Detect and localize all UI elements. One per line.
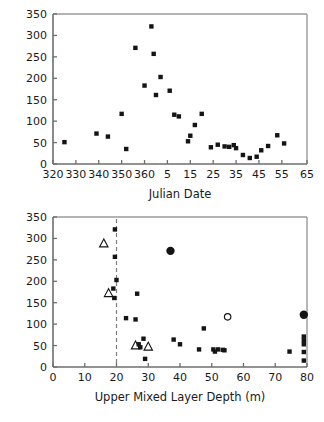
data-point-square [302,358,306,362]
data-point-filled-circle [300,311,308,319]
bottom-panel-chart: 05010015020025030035001020304050607080Up… [0,211,324,422]
data-point-square [216,143,220,147]
data-point-square [193,123,197,127]
data-point-square [222,144,226,148]
data-point-square [158,75,162,79]
x-tick-label: 80 [300,371,314,384]
x-axis-ticks: 01020304050607080 [50,363,315,384]
x-tick-label: 25 [206,168,220,181]
x-tick-label: 55 [275,168,289,181]
x-tick-label: 60 [237,371,251,384]
x-tick-label: 10 [78,371,92,384]
x-tick-label: 320 [43,168,64,181]
data-point-square [216,347,220,351]
series-large-filled-circle [166,247,308,319]
x-tick-label: 360 [134,168,155,181]
top-panel-svg: 0501001502002503003503203303403503605152… [0,0,324,211]
data-point-square [234,146,238,150]
data-point-square [111,286,115,290]
data-point-square [188,134,192,138]
x-axis-title: Julian Date [148,187,212,201]
data-point-square [119,112,123,116]
x-tick-label: 70 [268,371,282,384]
data-point-square [113,227,117,231]
data-point-square [168,89,172,93]
data-point-square [62,140,66,144]
y-tick-label: 350 [26,211,47,224]
data-point-square [124,147,128,151]
data-point-square [302,342,306,346]
data-point-square [282,141,286,145]
data-point-square [113,255,117,259]
y-tick-label: 50 [33,340,47,353]
data-point-square [141,337,145,341]
y-tick-label: 250 [26,254,47,267]
data-point-square [248,156,252,160]
x-tick-label: 50 [205,371,219,384]
x-tick-label: 65 [300,168,314,181]
series-open-triangle [100,239,153,350]
data-point-filled-circle [166,247,174,255]
top-panel-chart: 0501001502002503003503203303403503605152… [0,0,324,211]
series-open-circle [224,314,230,320]
data-point-square [171,337,175,341]
data-point-square [227,145,231,149]
data-point-square [259,148,263,152]
data-point-open-triangle [100,239,108,247]
data-point-square [197,347,201,351]
y-tick-label: 300 [26,29,47,42]
bottom-panel-svg: 05010015020025030035001020304050607080Up… [0,211,324,422]
data-point-square [114,278,118,282]
y-tick-label: 150 [26,94,47,107]
data-point-square [177,114,181,118]
x-tick-label: 35 [229,168,243,181]
x-tick-label: 40 [173,371,187,384]
data-point-square [154,93,158,97]
data-point-square [186,139,190,143]
x-tick-label: 30 [141,371,155,384]
data-point-square [135,292,139,296]
data-point-open-circle [224,314,230,320]
data-point-square [143,357,147,361]
data-point-square [275,133,279,137]
data-point-square [200,112,204,116]
y-tick-label: 50 [33,137,47,150]
data-point-open-triangle [144,342,152,350]
x-tick-label: 0 [50,371,57,384]
data-point-square [149,24,153,28]
data-point-square [151,52,155,56]
y-tick-label: 0 [40,361,47,374]
y-tick-label: 250 [26,51,47,64]
x-tick-label: 15 [183,168,197,181]
data-point-square [133,317,137,321]
x-axis-ticks: 3203303403503605152535455565 [43,160,315,181]
data-point-square [142,83,146,87]
data-point-square [266,144,270,148]
x-tick-label: 350 [111,168,132,181]
series-chlorophyll-a [62,24,286,160]
y-tick-label: 200 [26,72,47,85]
x-tick-label: 45 [252,168,266,181]
data-point-square [287,349,291,353]
x-tick-label: 20 [110,371,124,384]
data-point-square [302,334,306,338]
data-point-square [94,131,98,135]
data-point-square [106,134,110,138]
y-tick-label: 100 [26,115,47,128]
data-point-square [178,342,182,346]
y-tick-label: 350 [26,8,47,21]
y-tick-label: 150 [26,297,47,310]
y-tick-label: 100 [26,318,47,331]
data-point-square [241,153,245,157]
data-point-square [133,46,137,50]
x-axis-title: Upper Mixed Layer Depth (m) [95,390,266,404]
x-tick-label: 340 [88,168,109,181]
plot-frame [53,14,307,164]
data-point-square [302,338,306,342]
x-tick-label: 5 [164,168,171,181]
data-point-square [222,348,226,352]
data-point-square [302,350,306,354]
series-small-filled-square [111,227,306,363]
y-tick-label: 200 [26,275,47,288]
y-tick-label: 300 [26,232,47,245]
